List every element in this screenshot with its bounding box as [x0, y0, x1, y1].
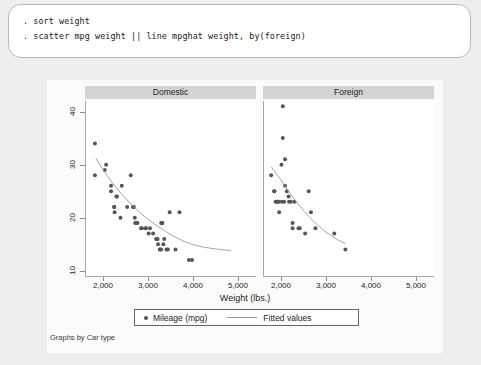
scatter-point [190, 258, 194, 262]
scatter-point [298, 226, 302, 230]
scatter-point [173, 247, 177, 251]
scatter-point [272, 189, 276, 193]
scatter-point [287, 194, 291, 198]
plot-canvas-domestic [86, 101, 256, 276]
x-tick-label: 2,000 [263, 281, 299, 290]
scatter-point [161, 242, 165, 246]
scatter-point [309, 210, 313, 214]
scatter-point [332, 232, 336, 236]
scatter-point [93, 141, 97, 145]
x-tick-label: 5,000 [220, 281, 256, 290]
scatter-point [159, 247, 163, 251]
command-line-1: . sort weight [23, 14, 470, 29]
x-tick-label: 4,000 [353, 281, 389, 290]
fitted-line [96, 158, 231, 250]
scatter-point [289, 200, 293, 204]
x-tick-label: 4,000 [175, 281, 211, 290]
scatter-point [118, 216, 122, 220]
scatter-point [282, 200, 286, 204]
scatter-point [279, 163, 283, 167]
scatter-point [147, 232, 151, 236]
graph-window: Domestic Foreign 10203040 2,0003,0004,00… [47, 80, 443, 353]
scatter-point [113, 210, 117, 214]
legend-entry-fitted: Fitted values [227, 313, 311, 323]
scatter-point [269, 173, 273, 177]
scatter-point [166, 247, 170, 251]
chart-legend: Mileage (mpg) Fitted values [134, 309, 359, 326]
scatter-point [140, 226, 144, 230]
scatter-point [148, 226, 152, 230]
legend-label-mileage: Mileage (mpg) [153, 313, 207, 323]
stata-command-box[interactable]: . sort weight . scatter mpg weight || li… [8, 4, 471, 58]
plot-region-domestic [85, 101, 256, 276]
x-axis-line-domestic [85, 276, 256, 277]
command-line-2: . scatter mpg weight || line mpghat weig… [23, 29, 470, 44]
y-tick-label: 30 [68, 157, 77, 171]
scatter-point [277, 210, 281, 214]
scatter-point [283, 157, 287, 161]
panel-title-foreign: Foreign [263, 86, 434, 99]
x-tick-label: 3,000 [130, 281, 166, 290]
panel-title-domestic: Domestic [85, 86, 256, 99]
scatter-point [343, 247, 347, 251]
scatter-point [115, 194, 119, 198]
x-tick-label: 3,000 [308, 281, 344, 290]
y-tick-label: 10 [68, 263, 77, 277]
scatter-point [109, 189, 113, 193]
legend-line-icon [227, 317, 257, 318]
scatter-point [161, 221, 165, 225]
scatter-point [109, 184, 113, 188]
scatter-point [120, 184, 124, 188]
graph-note: Graphs by Car type [50, 333, 115, 342]
scatter-point [104, 163, 108, 167]
y-tick-mark [80, 218, 85, 219]
scatter-point [281, 136, 285, 140]
scatter-point [133, 216, 137, 220]
scatter-point [125, 205, 129, 209]
scatter-point [313, 226, 317, 230]
legend-marker-icon [144, 316, 148, 320]
scatter-point [129, 173, 133, 177]
scatter-point [291, 226, 295, 230]
scatter-point [93, 173, 97, 177]
legend-entry-mileage: Mileage (mpg) [144, 313, 207, 323]
x-axis-title: Weight (lbs.) [47, 293, 443, 303]
plot-region-foreign [263, 101, 434, 276]
scatter-point [162, 237, 166, 241]
plot-canvas-foreign [264, 101, 434, 276]
y-tick-mark [80, 165, 85, 166]
y-tick-label: 20 [68, 210, 77, 224]
scatter-point [291, 221, 295, 225]
y-tick-mark [80, 271, 85, 272]
y-tick-label: 40 [68, 104, 77, 118]
scatter-point [135, 221, 139, 225]
scatter-point [178, 210, 182, 214]
scatter-point [144, 226, 148, 230]
scatter-point [281, 104, 285, 108]
scatter-point [156, 242, 160, 246]
scatter-point [307, 189, 311, 193]
scatter-point [303, 232, 307, 236]
legend-label-fitted: Fitted values [263, 313, 311, 323]
scatter-point [168, 210, 172, 214]
scatter-point [156, 237, 160, 241]
y-tick-mark [80, 112, 85, 113]
scatter-point [151, 232, 155, 236]
scatter-point [112, 205, 116, 209]
x-tick-label: 5,000 [398, 281, 434, 290]
x-tick-label: 2,000 [85, 281, 121, 290]
x-axis-line-foreign [263, 276, 434, 277]
